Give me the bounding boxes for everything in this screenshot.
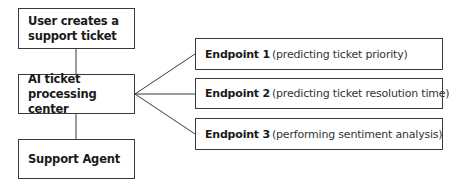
endpoint-description: (predicting ticket priority)	[272, 48, 408, 61]
node-ai-ticket-processing-center: AI ticket processing center	[18, 74, 135, 114]
edge-center-to-endpoint-1	[135, 54, 195, 94]
endpoint-description: (predicting ticket resolution time)	[272, 87, 449, 100]
node-label: Support Agent	[28, 152, 120, 167]
endpoint-title: Endpoint 3	[205, 128, 270, 141]
node-label: AI ticket processing center	[28, 72, 125, 117]
endpoint-title: Endpoint 2	[205, 87, 270, 100]
endpoint-description: (performing sentiment analysis)	[272, 128, 442, 141]
node-support-agent: Support Agent	[18, 139, 135, 179]
node-endpoint-1: Endpoint 1 (predicting ticket priority)	[195, 38, 443, 70]
node-user-creates-ticket: User creates a support ticket	[18, 8, 135, 49]
node-endpoint-2: Endpoint 2 (predicting ticket resolution…	[195, 78, 443, 109]
node-endpoint-3: Endpoint 3 (performing sentiment analysi…	[195, 118, 443, 150]
endpoint-title: Endpoint 1	[205, 48, 270, 61]
edge-center-to-endpoint-3	[135, 94, 195, 134]
node-label: User creates a support ticket	[28, 14, 125, 44]
